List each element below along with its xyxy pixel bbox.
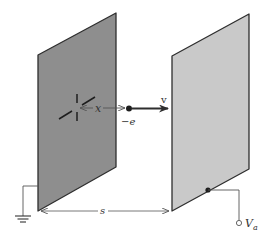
diode-diagram: x −e v s Va (0, 0, 265, 242)
anode-voltage-label: Va (245, 217, 258, 232)
position-label: x (95, 102, 102, 115)
anode-terminal-icon (236, 220, 241, 225)
anode-voltage-subscript: a (253, 223, 258, 232)
separation-label: s (100, 205, 105, 216)
ground-wire (23, 186, 38, 216)
velocity-label: v (160, 94, 167, 105)
electron-dot (126, 106, 132, 112)
anode-plate (172, 14, 249, 211)
ground-icon (15, 216, 31, 222)
anode-wire (208, 190, 239, 220)
charge-label: −e (121, 116, 135, 127)
